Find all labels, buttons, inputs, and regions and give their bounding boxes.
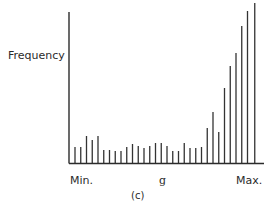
y-axis-label: Frequency	[8, 49, 65, 62]
histogram-chart	[0, 0, 271, 216]
figure-caption: (c)	[131, 190, 144, 201]
x-axis-label: g	[159, 174, 166, 187]
x-axis-min-label: Min.	[70, 174, 93, 187]
histogram-bars	[75, 3, 255, 163]
x-axis-max-label: Max.	[236, 174, 262, 187]
